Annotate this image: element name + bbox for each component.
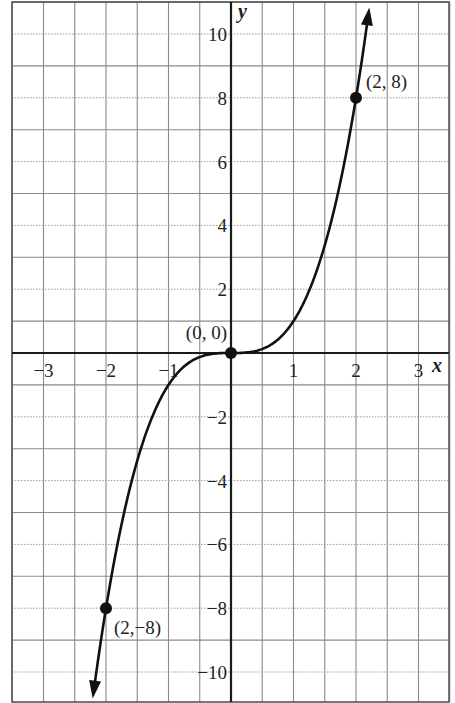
x-tick-label: −3	[33, 360, 53, 381]
y-tick-label: 10	[208, 24, 227, 45]
point-label: (2,−8)	[114, 617, 161, 639]
x-tick-label: 3	[414, 360, 424, 381]
x-tick-label: 2	[351, 360, 361, 381]
x-axis-label: x	[431, 354, 442, 376]
y-tick-label: 8	[218, 88, 228, 109]
point-marker	[100, 602, 112, 614]
y-tick-label: −6	[207, 534, 227, 555]
x-tick-label: −2	[96, 360, 116, 381]
arrowhead-up-icon	[361, 7, 373, 26]
y-tick-label: 6	[218, 152, 228, 173]
labeled-points: (2, 8)(0, 0)(2,−8)	[100, 71, 407, 639]
y-tick-label: −10	[197, 662, 227, 683]
point-marker	[225, 347, 237, 359]
y-tick-label: 2	[218, 279, 228, 300]
cubic-function-graph: −3−2−1123108642−2−4−6−8−10 (2, 8)(0, 0)(…	[0, 0, 455, 703]
point-label: (0, 0)	[186, 322, 227, 344]
x-tick-label: 1	[289, 360, 299, 381]
point-marker	[350, 92, 362, 104]
y-tick-label: −8	[207, 598, 227, 619]
point-label: (2, 8)	[366, 71, 407, 93]
y-tick-label: −2	[207, 407, 227, 428]
x-tick-label: −1	[158, 360, 178, 381]
plot-area: −3−2−1123108642−2−4−6−8−10 (2, 8)(0, 0)(…	[0, 0, 455, 703]
y-tick-label: −4	[207, 471, 228, 492]
y-tick-label: 4	[218, 215, 228, 236]
arrowhead-down-icon	[89, 680, 101, 699]
y-axis-label: y	[236, 0, 247, 23]
